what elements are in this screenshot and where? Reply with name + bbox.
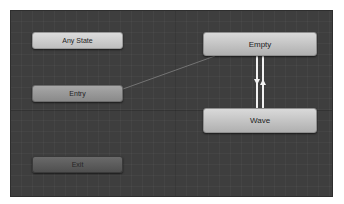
any-state-label: Any State	[62, 37, 92, 44]
empty-state-label: Empty	[249, 40, 272, 49]
exit-label: Exit	[72, 161, 84, 168]
any-state-node[interactable]: Any State	[32, 32, 123, 49]
state-node-wave[interactable]: Wave	[203, 108, 317, 133]
default-transition-line[interactable]	[123, 56, 215, 89]
animator-graph-canvas[interactable]: Any State Entry Exit Empty Wave	[10, 10, 333, 197]
wave-state-label: Wave	[250, 116, 270, 125]
entry-node[interactable]: Entry	[32, 85, 123, 102]
arrow-up-icon	[260, 79, 266, 85]
entry-label: Entry	[69, 90, 85, 97]
state-node-empty[interactable]: Empty	[203, 32, 317, 56]
arrow-down-icon	[254, 79, 260, 85]
exit-node[interactable]: Exit	[32, 156, 123, 173]
